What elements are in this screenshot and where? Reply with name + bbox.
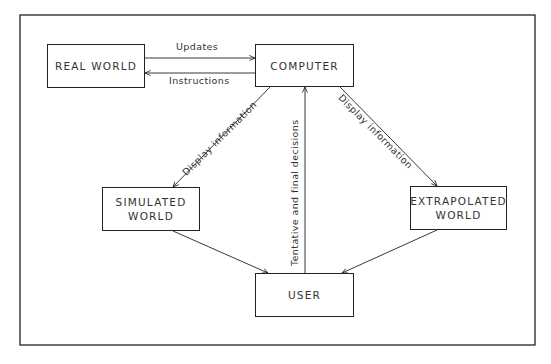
node-real-world: REAL WORLD bbox=[47, 44, 145, 88]
edge-label-decisions: Tentative and final decisions bbox=[289, 119, 300, 266]
node-simulated-label-1: SIMULATED bbox=[116, 195, 187, 209]
node-computer: COMPUTER bbox=[255, 44, 354, 87]
node-user: USER bbox=[255, 273, 354, 317]
node-simulated-label-2: WORLD bbox=[128, 209, 174, 223]
simulated-to-user-arrow bbox=[173, 231, 268, 273]
node-computer-label: COMPUTER bbox=[270, 59, 339, 73]
node-extrapolated-label-1: EXTRAPOLATED bbox=[410, 194, 507, 208]
node-extrapolated-world: EXTRAPOLATED WORLD bbox=[410, 186, 507, 230]
edge-label-updates: Updates bbox=[176, 41, 218, 52]
node-user-label: USER bbox=[288, 288, 321, 302]
node-simulated-world: SIMULATED WORLD bbox=[102, 187, 200, 231]
edge-label-instructions: Instructions bbox=[169, 75, 230, 86]
node-real-world-label: REAL WORLD bbox=[55, 59, 137, 73]
extrapolated-to-user-arrow bbox=[342, 230, 437, 273]
node-extrapolated-label-2: WORLD bbox=[436, 208, 482, 222]
